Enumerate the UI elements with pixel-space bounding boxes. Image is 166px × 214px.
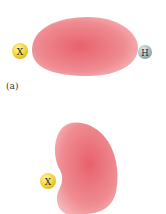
panel-a: X H	[12, 17, 152, 76]
electron-cloud-b	[55, 122, 118, 214]
atom-x-a-symbol: X	[17, 47, 24, 57]
atom-h-a: H	[138, 45, 152, 59]
atom-x-b-symbol: X	[45, 177, 52, 187]
electron-cloud-a	[32, 17, 138, 76]
panel-b: X	[40, 122, 118, 214]
atom-x-b: X	[40, 173, 56, 189]
figure-canvas: X H X	[0, 0, 166, 214]
atom-h-a-symbol: H	[141, 48, 148, 58]
panel-a-label: (a)	[6, 81, 18, 91]
atom-x-a: X	[12, 43, 28, 59]
